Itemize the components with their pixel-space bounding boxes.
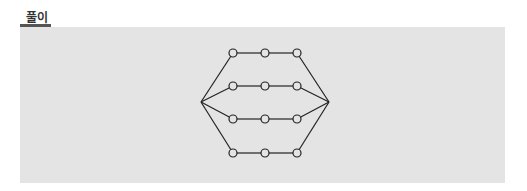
graph-node: [229, 115, 237, 123]
graph-nodes: [229, 49, 301, 157]
graph-node: [293, 149, 301, 157]
graph-diagram: [0, 0, 527, 191]
graph-node: [293, 82, 301, 90]
graph-node: [261, 82, 269, 90]
graph-node: [261, 49, 269, 57]
graph-node: [293, 115, 301, 123]
graph-node: [293, 49, 301, 57]
graph-node: [261, 149, 269, 157]
graph-edges: [201, 53, 329, 153]
graph-node: [229, 49, 237, 57]
graph-edge: [297, 102, 329, 153]
graph-node: [261, 115, 269, 123]
graph-node: [229, 82, 237, 90]
graph-node: [229, 149, 237, 157]
graph-edge: [201, 102, 233, 153]
